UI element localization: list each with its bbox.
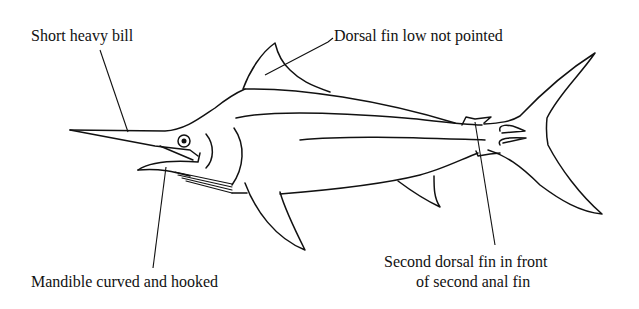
dorsal-fin (243, 43, 330, 92)
label-short-heavy-bill: Short heavy bill (31, 26, 133, 45)
bill-pointer (100, 50, 128, 132)
anal-fin (398, 176, 440, 207)
label-second-dorsal-line1: Second dorsal fin in front (384, 252, 548, 271)
label-dorsal-fin: Dorsal fin low not pointed (334, 26, 503, 45)
bill-outline (70, 89, 245, 131)
mandible (138, 153, 200, 170)
label-mandible: Mandible curved and hooked (31, 272, 218, 291)
mandible-pointer (153, 167, 166, 268)
label-second-dorsal-line2: of second anal fin (416, 272, 530, 291)
